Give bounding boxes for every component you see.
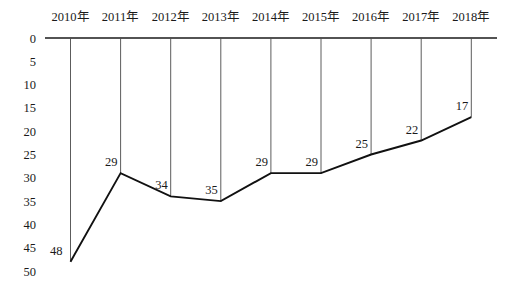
y-tick-label: 30: [24, 171, 37, 185]
chart-canvas: 051015202530354045502010年2011年2012年2013年…: [0, 0, 519, 290]
year-label: 2015年: [302, 10, 340, 24]
data-label: 48: [50, 244, 63, 258]
y-tick-label: 40: [24, 218, 37, 232]
data-label: 25: [356, 137, 369, 151]
data-label: 29: [105, 155, 118, 169]
year-label: 2013年: [202, 10, 240, 24]
y-tick-label: 5: [30, 55, 36, 69]
y-tick-label: 0: [30, 32, 36, 46]
data-label: 34: [155, 178, 168, 192]
y-tick-label: 20: [24, 125, 37, 139]
year-label: 2017年: [402, 10, 440, 24]
data-label: 29: [255, 155, 268, 169]
year-label: 2010年: [52, 10, 90, 24]
data-label: 22: [406, 123, 419, 137]
data-label: 35: [205, 183, 218, 197]
data-label: 29: [306, 155, 319, 169]
y-tick-label: 45: [24, 241, 37, 255]
data-label: 17: [456, 99, 469, 113]
year-label: 2018年: [452, 10, 490, 24]
y-tick-label: 50: [24, 265, 37, 279]
y-tick-label: 25: [24, 148, 37, 162]
y-tick-label: 15: [24, 101, 37, 115]
y-tick-label: 10: [24, 78, 37, 92]
y-tick-label: 35: [24, 195, 37, 209]
year-label: 2016年: [352, 10, 390, 24]
inverted-line-chart: 051015202530354045502010年2011年2012年2013年…: [0, 0, 519, 290]
year-label: 2011年: [102, 10, 140, 24]
year-label: 2014年: [252, 10, 290, 24]
year-label: 2012年: [152, 10, 190, 24]
